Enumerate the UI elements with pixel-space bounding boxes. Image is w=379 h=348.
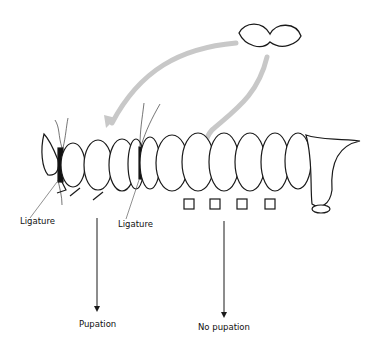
no-pupation-arrowhead-icon — [221, 312, 227, 318]
ligature-left-pointer — [30, 182, 57, 218]
label-ligature-middle: Ligature — [118, 219, 153, 229]
head — [42, 134, 59, 175]
label-pupation: Pupation — [79, 319, 116, 329]
label-no-pupation: No pupation — [198, 322, 250, 332]
prolegs — [184, 199, 330, 213]
label-ligature-left: Ligature — [20, 216, 55, 226]
pupation-arrowhead-icon — [94, 306, 100, 312]
ligature-experiment-diagram — [0, 0, 379, 348]
hormone-arrow-left — [112, 43, 236, 123]
gland-icon — [239, 24, 301, 46]
caterpillar — [42, 133, 360, 213]
outcome-arrows — [97, 218, 224, 313]
